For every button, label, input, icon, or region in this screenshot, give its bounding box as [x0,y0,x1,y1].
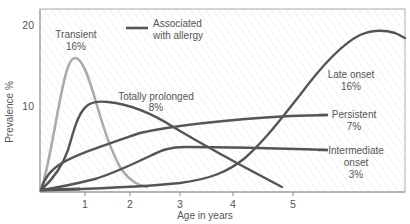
label-persistent: Persistent [332,109,377,120]
plot-bg-top-strip [40,9,405,10]
prevalence-chart: 1 2 3 4 5 Age in years 20 10 Prevalence … [0,0,410,224]
y-axis-label: Prevalence % [4,81,15,143]
label-transient: Transient [55,29,97,40]
curve-base-overlap [41,189,80,190]
label-intermediate: Intermediate [328,145,384,156]
y-tick-label-10: 10 [22,100,34,112]
label-totally-prolonged: Totally prolonged [118,91,194,102]
legend-label-line1: Associated [153,18,202,29]
x-tick-label-1: 1 [82,198,88,210]
label-transient-pct: 16% [66,41,86,52]
y-tick-label-20: 20 [22,19,34,31]
label-persistent-pct: 7% [347,121,362,132]
x-tick-label-3: 3 [177,198,183,210]
label-intermediate-pct: 3% [349,169,364,180]
x-tick-label-2: 2 [127,198,133,210]
x-axis-label: Age in years [177,210,233,221]
label-late-onset: Late onset [328,69,375,80]
label-intermediate-onset: onset [344,157,369,168]
label-totally-prolonged-pct: 8% [149,102,164,113]
x-tick-label-5: 5 [290,198,296,210]
label-late-onset-pct: 16% [341,81,361,92]
legend-label-line2: with allergy [152,30,203,41]
x-tick-label-4: 4 [230,198,236,210]
